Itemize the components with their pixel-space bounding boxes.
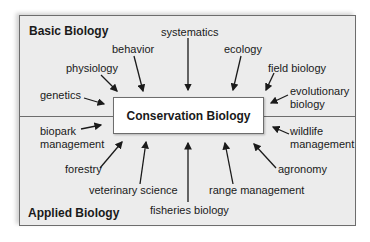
arrow-range-management	[225, 143, 233, 184]
arrow-veterinary-science	[140, 142, 146, 184]
arrow-behavior	[134, 56, 143, 91]
arrow-ecology	[233, 56, 241, 90]
arrow-genetics	[84, 98, 104, 104]
arrow-biopark-management	[81, 125, 101, 129]
arrow-agronomy	[254, 144, 276, 168]
arrow-wildlife-management	[273, 127, 289, 134]
arrow-evolutionary-biology	[271, 95, 288, 103]
arrows-layer	[0, 0, 370, 242]
arrow-field-biology	[266, 73, 274, 90]
arrow-forestry	[100, 142, 122, 168]
arrow-physiology	[101, 75, 117, 91]
